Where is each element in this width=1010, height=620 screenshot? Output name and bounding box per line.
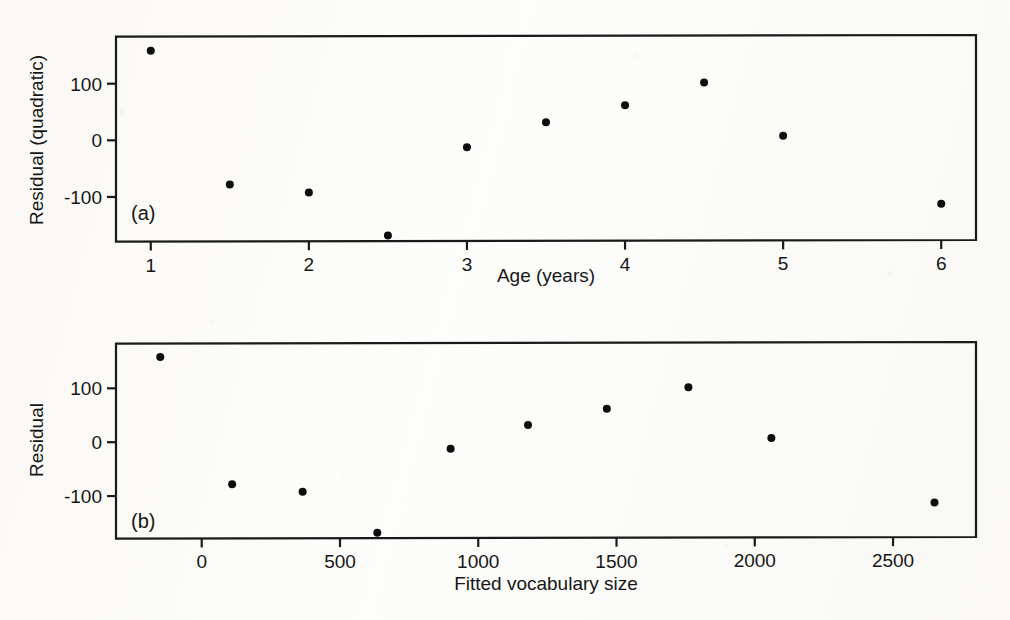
data-point — [621, 101, 629, 109]
panel-b-data-points — [156, 353, 938, 537]
data-point — [463, 143, 471, 151]
panel-b-y-tickmarks — [107, 388, 116, 496]
panel-a-tag: (a) — [131, 202, 155, 224]
residual-plot-figure: 1000-100 123456 Residual (quadratic) Age… — [0, 0, 1010, 620]
data-point — [542, 118, 550, 126]
panel-a-y-tickmarks — [107, 84, 116, 197]
data-point — [447, 445, 455, 453]
panel-b-plot-frame — [116, 342, 976, 539]
panel-b-tag: (b) — [131, 510, 155, 532]
data-point — [226, 181, 234, 189]
data-point — [299, 488, 307, 496]
panel-b-x-ticklabels: 05001000150020002500 — [196, 550, 914, 572]
panel-a-xtick-label: 1 — [145, 255, 156, 276]
panel-b-xtick-label: 1000 — [457, 551, 499, 572]
data-point — [524, 421, 532, 429]
panel-a-ytick-label: 100 — [70, 74, 102, 95]
panel-a-svg: 1000-100 123456 Residual (quadratic) Age… — [0, 0, 1010, 310]
data-point — [384, 231, 392, 239]
panel-b-ytick-label: 0 — [91, 432, 102, 453]
data-point — [767, 434, 775, 442]
data-point — [700, 79, 708, 87]
panel-b-xtick-label: 2000 — [734, 550, 776, 571]
panel-b-xtick-label: 0 — [196, 551, 207, 572]
panel-a-y-axis-title: Residual (quadratic) — [26, 55, 47, 225]
data-point — [937, 200, 945, 208]
data-point — [779, 132, 787, 140]
panel-b-ytick-label: -100 — [64, 486, 102, 507]
panel-a-age-vs-residual-quadratic: 1000-100 123456 Residual (quadratic) Age… — [0, 0, 1010, 310]
panel-a-data-points — [147, 47, 945, 240]
panel-a-plot-frame — [116, 35, 976, 242]
panel-b-y-ticklabels: 1000-100 — [64, 378, 102, 507]
panel-b-svg: 1000-100 05001000150020002500 Residual F… — [0, 310, 1010, 620]
panel-b-fitted-vocab-vs-residual: 1000-100 05001000150020002500 Residual F… — [0, 310, 1010, 620]
data-point — [931, 499, 939, 507]
data-point — [603, 405, 611, 413]
panel-a-ytick-label: -100 — [64, 187, 102, 208]
panel-a-y-ticklabels: 1000-100 — [64, 74, 102, 208]
panel-a-ytick-label: 0 — [91, 130, 102, 151]
data-point — [147, 47, 155, 55]
panel-a-xtick-label: 6 — [936, 253, 947, 274]
panel-b-y-axis-title: Residual — [26, 403, 47, 477]
panel-a-xtick-label: 4 — [620, 254, 631, 275]
panel-a-xtick-label: 3 — [462, 254, 473, 275]
panel-b-xtick-label: 2500 — [872, 550, 914, 571]
data-point — [684, 383, 692, 391]
panel-b-xtick-label: 500 — [324, 551, 356, 572]
panel-b-x-axis-title: Fitted vocabulary size — [454, 573, 638, 594]
panel-b-xtick-label: 1500 — [595, 551, 637, 572]
panel-a-xtick-label: 2 — [304, 254, 315, 275]
panel-b-ytick-label: 100 — [70, 378, 102, 399]
data-point — [228, 480, 236, 488]
data-point — [305, 188, 313, 196]
panel-a-x-axis-title: Age (years) — [497, 265, 595, 286]
panel-a-xtick-label: 5 — [778, 253, 789, 274]
data-point — [156, 353, 164, 361]
data-point — [373, 529, 381, 537]
